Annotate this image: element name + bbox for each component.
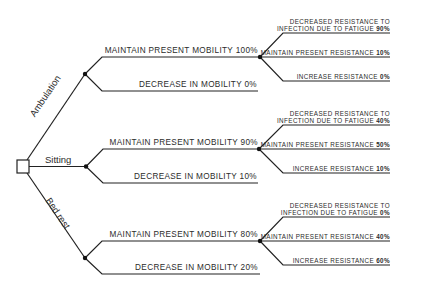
sit-sub-1-pct: 40% — [376, 117, 390, 124]
amb-sub-3-label: INCREASE RESISTANCE 0% — [297, 73, 390, 80]
sit-sub-1-line2: INFECTION DUE TO FATIGUE — [277, 117, 374, 124]
sit-sub-2-text: MAINTAIN PRESENT RESISTANCE — [261, 141, 374, 148]
ambulation-chance-node — [83, 72, 87, 76]
sit-sub-3-label: INCREASE RESISTANCE 10% — [293, 165, 390, 172]
bed-sub-1-label: DECREASED RESISTANCE TO INFECTION DUE TO… — [281, 202, 390, 216]
amb-sub-1-pct: 90% — [376, 25, 390, 32]
sit-sub-3-pct: 10% — [376, 165, 390, 172]
bed-sub-1-line1: DECREASED RESISTANCE TO — [281, 202, 390, 209]
amb-sub-1-label: DECREASED RESISTANCE TO INFECTION DUE TO… — [277, 18, 390, 32]
ambulation-decrease-label: DECREASE IN MOBILITY 0% — [139, 81, 257, 89]
bed-sub-2-text: MAINTAIN PRESENT RESISTANCE — [261, 233, 374, 240]
sit-sub-1-label: DECREASED RESISTANCE TO INFECTION DUE TO… — [277, 110, 390, 124]
bed-sub-3-label: INCREASE RESISTANCE 60% — [293, 257, 390, 264]
amb-sub-1-line2: INFECTION DUE TO FATIGUE — [277, 25, 374, 32]
sitting-chance-node — [84, 164, 88, 168]
amb-sub-2-label: MAINTAIN PRESENT RESISTANCE 10% — [261, 49, 390, 56]
sit-sub-2-pct: 50% — [376, 141, 390, 148]
bedrest-decrease-label: DECREASE IN MOBILITY 20% — [135, 264, 258, 272]
amb-sub-2-pct: 10% — [376, 49, 390, 56]
bed-sub-1-pct: 0% — [380, 209, 390, 216]
bed-sub-3-text: INCREASE RESISTANCE — [293, 257, 374, 264]
sitting-maintain-label: MAINTAIN PRESENT MOBILITY 90% — [110, 139, 258, 147]
sit-sub-2-label: MAINTAIN PRESENT RESISTANCE 50% — [261, 141, 390, 148]
amb-sub-1-line1: DECREASED RESISTANCE TO — [277, 18, 390, 25]
sitting-label: Sitting — [45, 155, 71, 165]
amb-sub-3-pct: 0% — [380, 73, 390, 80]
amb-sub-3-text: INCREASE RESISTANCE — [297, 73, 378, 80]
sit-sub-1-line1: DECREASED RESISTANCE TO — [277, 110, 390, 117]
bed-sub-1-line2: INFECTION DUE TO FATIGUE — [281, 209, 378, 216]
bedrest-maintain-line — [85, 241, 260, 258]
bedrest-maintain-label: MAINTAIN PRESENT MOBILITY 80% — [110, 231, 258, 239]
ambulation-maintain-label: MAINTAIN PRESENT MOBILITY 100% — [105, 47, 258, 55]
root-decision-node — [17, 160, 29, 173]
bed-sub-2-pct: 40% — [376, 233, 390, 240]
sitting-maintain-line — [86, 149, 259, 167]
bedrest-chance-node — [83, 256, 87, 260]
sitting-decrease-label: DECREASE IN MOBILITY 10% — [134, 173, 257, 181]
bed-sub-3-pct: 60% — [376, 257, 390, 264]
amb-sub-2-text: MAINTAIN PRESENT RESISTANCE — [261, 49, 374, 56]
ambulation-maintain-line — [85, 57, 260, 74]
bed-sub-2-label: MAINTAIN PRESENT RESISTANCE 40% — [261, 233, 390, 240]
sit-sub-3-text: INCREASE RESISTANCE — [293, 165, 374, 172]
